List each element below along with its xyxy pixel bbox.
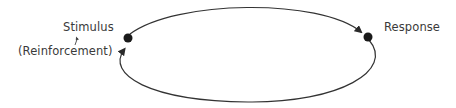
edge-stimulus-to-response bbox=[130, 7, 361, 34]
stimulus-label: Stimulus bbox=[63, 22, 114, 34]
edge-response-to-stimulus bbox=[120, 40, 375, 102]
stimulus-response-diagram: Stimulus (Reinforcement) Response bbox=[0, 0, 456, 108]
connector-arrow-icon bbox=[76, 37, 79, 41]
response-label: Response bbox=[384, 22, 440, 34]
stimulus-node-dot bbox=[124, 34, 133, 43]
reinforcement-label: (Reinforcement) bbox=[18, 46, 113, 58]
response-node-dot bbox=[364, 33, 373, 42]
